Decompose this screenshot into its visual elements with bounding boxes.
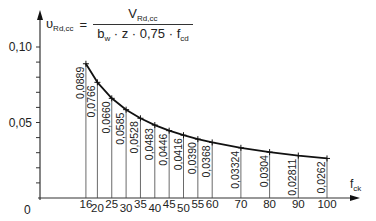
data-label: 0,0368	[200, 145, 212, 177]
data-label: 0,0304	[258, 155, 270, 187]
data-label: 0,0889	[74, 67, 86, 99]
formula: υRd,cc = VRd,cc bw · z · 0,75 · fcd	[46, 6, 193, 43]
y-tick-label: 0,05	[9, 116, 33, 130]
origin-label: 0	[24, 203, 31, 217]
x-tick-label: 55	[191, 198, 204, 210]
x-tick-label: 90	[292, 198, 305, 210]
formula-lhs: υRd,cc	[46, 16, 74, 33]
x-tick-label: 30	[120, 202, 133, 214]
formula-denominator: bw · z · 0,75 · fcd	[93, 24, 193, 43]
data-label: 0,0766	[85, 85, 97, 117]
formula-numerator: VRd,cc	[124, 6, 161, 24]
x-tick-label: 25	[105, 198, 118, 210]
x-axis-label: fck	[350, 177, 362, 193]
data-label: 0,02811	[286, 158, 298, 195]
y-tick-label: 0,10	[9, 40, 33, 54]
data-label: 0,0660	[100, 101, 112, 133]
x-tick-label: 20	[91, 202, 104, 214]
y-axis-arrow-icon	[37, 10, 43, 20]
x-tick-label: 80	[263, 198, 276, 210]
x-tick-label: 100	[317, 198, 336, 210]
x-tick-label: 70	[235, 198, 248, 210]
data-label: 0,0483	[143, 128, 155, 160]
data-label: 0,0446	[157, 134, 169, 166]
x-tick-label: 60	[206, 198, 219, 210]
data-label: 0,0416	[172, 138, 184, 170]
x-tick-label: 45	[163, 198, 176, 210]
x-tick-label: 50	[177, 202, 190, 214]
formula-equals: =	[80, 17, 88, 32]
x-tick-label: 35	[134, 198, 147, 210]
formula-fraction: VRd,cc bw · z · 0,75 · fcd	[93, 6, 193, 43]
data-label: 0,0262	[315, 161, 327, 193]
x-axis-arrow-icon	[350, 195, 360, 201]
x-tick-label: 40	[148, 202, 161, 214]
data-label: 0,0390	[186, 142, 198, 174]
data-label: 0,0585	[114, 113, 126, 145]
data-label: 0,03324	[229, 151, 241, 189]
data-label: 0,0528	[128, 121, 140, 153]
